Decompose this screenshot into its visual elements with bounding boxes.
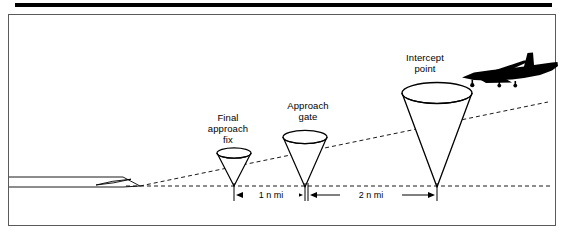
aircraft-silhouette: [462, 53, 558, 88]
cone-intercept-point: [402, 83, 472, 188]
dimension-label-2nmi: 2 n mi: [340, 190, 402, 200]
dimension-label-1nmi: 1 n mi: [243, 190, 299, 200]
label-approach-gate: Approach gate: [266, 100, 350, 122]
cone-approach-gate: [283, 130, 327, 187]
runway-perspective: [9, 177, 140, 187]
cone-final-approach-fix: [217, 148, 251, 186]
figure-root: Final approach fix Approach gate Interce…: [0, 0, 566, 237]
label-intercept-point: Intercept point: [388, 52, 462, 74]
label-final-approach-fix: Final approach fix: [186, 112, 270, 145]
